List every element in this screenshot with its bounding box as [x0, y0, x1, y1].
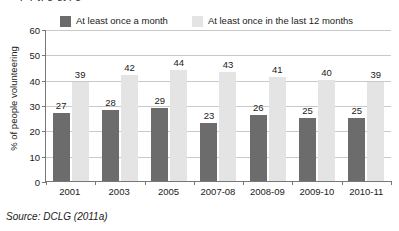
x-tick-mark — [292, 181, 293, 185]
clipped-title-fragment: sepqkjpg gypg — [0, 0, 399, 9]
plot-area: 2739284229442343264125402539 — [45, 30, 391, 182]
legend-label-at-least-once-a-month: At least once a month — [76, 16, 168, 26]
bar-value-label: 27 — [56, 100, 67, 111]
bar: 25 — [348, 118, 365, 181]
plot-wrapper: % of people volunteering 0102030405060 2… — [0, 30, 399, 205]
y-tick-label: 50 — [29, 50, 40, 61]
x-axis-ticks — [46, 181, 391, 185]
y-tick-label: 40 — [29, 75, 40, 86]
clipped-title-text: sepqkjpg gypg — [8, 0, 82, 1]
bar-value-label: 44 — [173, 57, 184, 68]
bar: 29 — [151, 108, 168, 181]
x-tick-mark — [194, 181, 195, 185]
bar-group: 2343 — [194, 30, 243, 181]
y-tick-label: 30 — [29, 101, 40, 112]
y-tick-label: 60 — [29, 25, 40, 36]
bar: 39 — [72, 82, 89, 181]
bar: 44 — [170, 70, 187, 181]
bar: 42 — [121, 75, 138, 181]
bar-value-label: 42 — [124, 62, 135, 73]
bar-group: 2842 — [95, 30, 144, 181]
bar-value-label: 23 — [204, 110, 215, 121]
x-tick-mark — [145, 181, 146, 185]
source-caption: Source: DCLG (2011a) — [6, 211, 108, 222]
x-tick-label: 2003 — [94, 186, 143, 197]
bar-group: 2739 — [46, 30, 95, 181]
x-tick-mark — [391, 181, 392, 185]
bar-group: 2539 — [342, 30, 391, 181]
bar: 40 — [318, 80, 335, 181]
bar-group: 2540 — [292, 30, 341, 181]
bar: 41 — [269, 77, 286, 181]
x-tick-label: 2009-10 — [292, 186, 341, 197]
x-tick-label: 2005 — [144, 186, 193, 197]
bar: 27 — [53, 113, 70, 181]
x-tick-mark — [342, 181, 343, 185]
y-axis-title: % of people volunteering — [8, 24, 19, 174]
x-tick-mark — [46, 181, 47, 185]
x-tick-label: 2008-09 — [243, 186, 292, 197]
bar-value-label: 39 — [75, 69, 86, 80]
x-tick-label: 2010-11 — [342, 186, 391, 197]
y-tick-label: 20 — [29, 126, 40, 137]
bar: 39 — [367, 82, 384, 181]
legend-item-at-least-once-a-month: At least once a month — [60, 16, 168, 27]
bar-value-label: 41 — [272, 64, 283, 75]
y-tick-label: 0 — [35, 177, 40, 188]
bar: 25 — [299, 118, 316, 181]
y-tick-label: 10 — [29, 151, 40, 162]
legend-swatch-light — [192, 16, 203, 27]
x-tick-label: 2007-08 — [193, 186, 242, 197]
bar-value-label: 25 — [352, 105, 363, 116]
bar-value-label: 43 — [223, 59, 234, 70]
bar: 43 — [219, 72, 236, 181]
legend-label-at-least-once-in-the-last-12-months: At least once in the last 12 months — [208, 16, 353, 26]
y-axis-tick-labels: 0102030405060 — [18, 30, 40, 182]
bar-group: 2944 — [145, 30, 194, 181]
bar-value-label: 29 — [154, 95, 165, 106]
bar-group: 2641 — [243, 30, 292, 181]
bar: 28 — [102, 110, 119, 181]
x-tick-mark — [243, 181, 244, 185]
bar-value-label: 39 — [371, 69, 382, 80]
x-tick-label: 2001 — [45, 186, 94, 197]
bar: 26 — [250, 115, 267, 181]
legend-swatch-dark — [60, 16, 71, 27]
bar-value-label: 25 — [302, 105, 313, 116]
bar-value-label: 28 — [105, 97, 116, 108]
chart-legend: At least once a month At least once in t… — [0, 13, 399, 29]
bar-value-label: 40 — [321, 67, 332, 78]
bar-groups: 2739284229442343264125402539 — [46, 30, 391, 181]
bar: 23 — [200, 123, 217, 181]
bar-value-label: 26 — [253, 102, 264, 113]
x-axis-tick-labels: 2001200320052007-082008-092009-102010-11 — [45, 186, 391, 197]
legend-item-at-least-once-in-the-last-12-months: At least once in the last 12 months — [192, 16, 353, 27]
x-tick-mark — [95, 181, 96, 185]
volunteering-bar-chart-figure: sepqkjpg gypg At least once a month At l… — [0, 0, 399, 231]
